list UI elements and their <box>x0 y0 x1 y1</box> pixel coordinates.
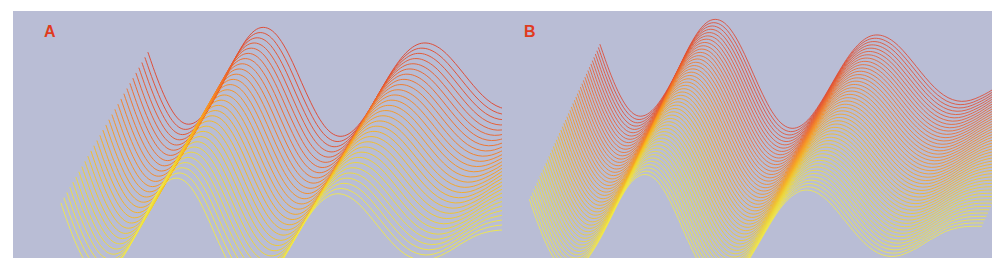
panel-b-waveform-plot <box>502 11 992 258</box>
panel-a: A <box>13 11 502 258</box>
waveform-line <box>121 74 502 183</box>
waveform-line <box>133 53 502 162</box>
waveform-line <box>73 157 502 258</box>
waveform-line <box>564 99 992 208</box>
waveform-line <box>127 64 502 173</box>
panel-b: B <box>502 11 992 258</box>
plot-area: A B <box>13 11 992 258</box>
panel-b-label: B <box>524 24 536 40</box>
panel-a-waveform-plot <box>13 11 502 258</box>
figure-root: A B <box>0 0 1004 272</box>
waveform-line <box>115 85 502 194</box>
waveform-line <box>124 69 502 178</box>
panel-a-label: A <box>44 24 56 40</box>
